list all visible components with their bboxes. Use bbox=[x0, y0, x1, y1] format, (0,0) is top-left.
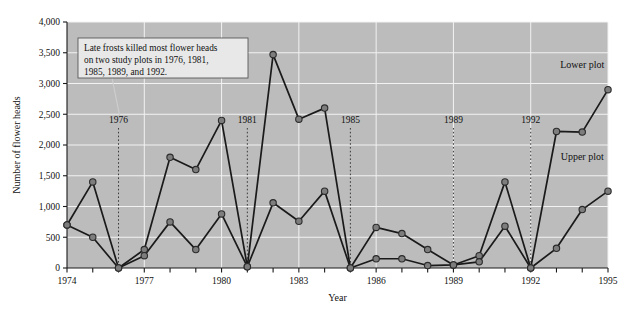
data-point-marker bbox=[321, 105, 327, 111]
x-tick-label: 1977 bbox=[135, 276, 154, 286]
x-tick-label: 1989 bbox=[444, 276, 463, 286]
event-label-1985: 1985 bbox=[341, 115, 360, 125]
data-point-marker bbox=[553, 245, 559, 251]
annotation-line: on two study plots in 1976, 1981, bbox=[84, 55, 208, 65]
data-point-marker bbox=[605, 86, 611, 92]
data-point-marker bbox=[450, 262, 456, 268]
flower-heads-line-chart: 05001,0001,5002,0002,5003,0003,5004,000 … bbox=[0, 0, 630, 310]
data-point-marker bbox=[218, 211, 224, 217]
data-point-marker bbox=[528, 265, 534, 271]
x-tick-label: 1986 bbox=[367, 276, 386, 286]
data-point-marker bbox=[244, 264, 250, 270]
data-point-marker bbox=[502, 179, 508, 185]
data-point-marker bbox=[502, 223, 508, 229]
y-tick-label: 2,500 bbox=[39, 110, 61, 120]
x-axis-ticks: 19741977198019831986198919921995 bbox=[58, 268, 618, 286]
data-point-marker bbox=[605, 188, 611, 194]
y-tick-label: 1,000 bbox=[39, 202, 61, 212]
chart-canvas: 05001,0001,5002,0002,5003,0003,5004,000 … bbox=[0, 0, 630, 310]
data-point-marker bbox=[424, 262, 430, 268]
data-point-marker bbox=[476, 253, 482, 259]
y-tick-label: 1,500 bbox=[39, 171, 61, 181]
data-point-marker bbox=[296, 218, 302, 224]
data-point-marker bbox=[424, 246, 430, 252]
data-point-marker bbox=[141, 253, 147, 259]
annotation-line: Late frosts killed most flower heads bbox=[84, 43, 218, 53]
y-tick-label: 3,000 bbox=[39, 79, 61, 89]
series-label-lower-plot: Lower plot bbox=[560, 59, 604, 70]
data-point-marker bbox=[321, 188, 327, 194]
x-tick-label: 1974 bbox=[58, 276, 77, 286]
data-point-marker bbox=[193, 166, 199, 172]
data-point-marker bbox=[476, 259, 482, 265]
data-point-marker bbox=[167, 219, 173, 225]
y-tick-label: 2,000 bbox=[39, 140, 61, 150]
y-tick-label: 4,000 bbox=[39, 17, 61, 27]
event-label-1981: 1981 bbox=[238, 115, 257, 125]
event-label-1992: 1992 bbox=[521, 115, 540, 125]
y-tick-label: 500 bbox=[46, 233, 61, 243]
data-point-marker bbox=[579, 206, 585, 212]
series-label-upper-plot: Upper plot bbox=[561, 151, 604, 162]
event-label-1976: 1976 bbox=[109, 115, 128, 125]
data-point-marker bbox=[553, 128, 559, 134]
y-axis-title: Number of flower heads bbox=[11, 96, 22, 194]
data-point-marker bbox=[373, 256, 379, 262]
data-point-marker bbox=[141, 246, 147, 252]
event-label-1989: 1989 bbox=[444, 115, 463, 125]
data-point-marker bbox=[373, 224, 379, 230]
y-tick-label: 0 bbox=[55, 263, 60, 273]
data-point-marker bbox=[218, 117, 224, 123]
data-point-marker bbox=[270, 51, 276, 57]
x-tick-label: 1995 bbox=[599, 276, 618, 286]
y-axis-ticks: 05001,0001,5002,0002,5003,0003,5004,000 bbox=[39, 17, 67, 273]
data-point-marker bbox=[347, 265, 353, 271]
data-point-marker bbox=[115, 265, 121, 271]
y-tick-label: 3,500 bbox=[39, 48, 61, 58]
data-point-marker bbox=[167, 154, 173, 160]
data-point-marker bbox=[64, 222, 70, 228]
data-point-marker bbox=[193, 246, 199, 252]
data-point-marker bbox=[270, 200, 276, 206]
data-point-marker bbox=[579, 129, 585, 135]
x-tick-label: 1980 bbox=[212, 276, 231, 286]
data-point-marker bbox=[399, 230, 405, 236]
data-point-marker bbox=[399, 256, 405, 262]
data-point-marker bbox=[90, 179, 96, 185]
x-axis-title: Year bbox=[328, 292, 347, 303]
x-tick-label: 1992 bbox=[521, 276, 540, 286]
data-point-marker bbox=[296, 116, 302, 122]
x-tick-label: 1983 bbox=[289, 276, 308, 286]
annotation-line: 1985, 1989, and 1992. bbox=[84, 67, 167, 77]
data-point-marker bbox=[90, 234, 96, 240]
